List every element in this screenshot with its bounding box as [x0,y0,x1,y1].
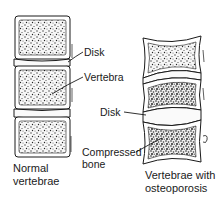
caption-osteoporosis-line2: osteoporosis [145,182,207,195]
normal-spine [14,16,72,157]
label-compressed: Compressed [82,146,142,158]
caption-normal-line2: vertebrae [13,175,59,188]
osteoporotic-spine [143,36,207,164]
label-vertebra: Vertebra [84,71,124,83]
caption-osteoporosis-line1: Vertebrae with [145,169,215,182]
label-bone: bone [82,158,105,170]
caption-normal-line1: Normal [13,162,48,175]
label-disk-normal: Disk [84,46,104,58]
label-disk-osteoporosis: Disk [100,106,120,118]
